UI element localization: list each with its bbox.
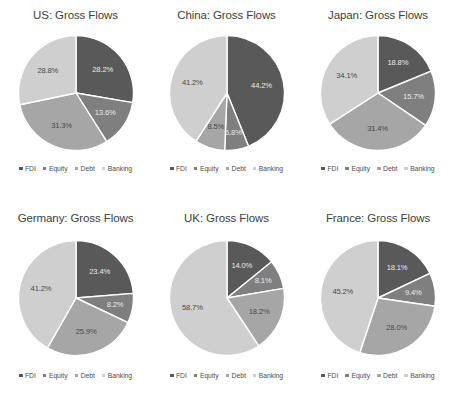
legend-swatch-icon: [377, 374, 381, 378]
pie-chart-panel: Germany: Gross Flows23.4%8.2%25.9%41.2%F…: [0, 203, 151, 415]
legend-label: Equity: [49, 372, 68, 379]
legend-swatch-icon: [43, 374, 47, 378]
pie-figure: 44.2%6.8%8.5%41.2%: [168, 34, 286, 152]
pie-figure: 28.2%13.6%31.3%28.8%: [17, 34, 135, 152]
legend-item[interactable]: FDI: [19, 165, 36, 172]
legend-swatch-icon: [19, 167, 23, 171]
legend-item[interactable]: Banking: [102, 372, 132, 379]
legend-label: Banking: [108, 165, 132, 172]
legend-item[interactable]: Equity: [345, 372, 370, 379]
legend-label: Debt: [232, 372, 246, 379]
legend-item[interactable]: Equity: [43, 372, 68, 379]
pie-figure: 18.1%9.4%28.0%45.2%: [319, 239, 437, 357]
legend-swatch-icon: [321, 167, 325, 171]
chart-legend: FDIEquityDebtBanking: [170, 372, 283, 379]
legend-label: FDI: [176, 165, 187, 172]
chart-title: China: Gross Flows: [177, 8, 276, 22]
legend-label: Debt: [383, 165, 397, 172]
legend-label: FDI: [328, 372, 339, 379]
legend-item[interactable]: Banking: [404, 372, 434, 379]
pie-figure: 14.0%8.1%18.2%58.7%: [168, 239, 286, 357]
legend-swatch-icon: [194, 167, 198, 171]
legend-item[interactable]: FDI: [321, 165, 338, 172]
chart-title: UK: Gross Flows: [184, 211, 269, 225]
pie-chart-panel: US: Gross Flows28.2%13.6%31.3%28.8%FDIEq…: [0, 0, 151, 203]
legend-swatch-icon: [253, 167, 257, 171]
legend-swatch-icon: [102, 374, 106, 378]
legend-label: FDI: [25, 372, 36, 379]
legend-label: Banking: [410, 165, 434, 172]
pie-chart-panel: Japan: Gross Flows18.8%15.7%31.4%34.1%FD…: [302, 0, 454, 203]
pie-slice: [76, 36, 134, 103]
legend-swatch-icon: [345, 167, 349, 171]
legend-item[interactable]: Debt: [75, 165, 95, 172]
legend-item[interactable]: Debt: [377, 165, 397, 172]
legend-swatch-icon: [345, 374, 349, 378]
legend-swatch-icon: [321, 374, 325, 378]
legend-swatch-icon: [75, 167, 79, 171]
chart-legend: FDIEquityDebtBanking: [321, 165, 434, 172]
legend-label: Banking: [259, 165, 283, 172]
legend-item[interactable]: Banking: [253, 165, 283, 172]
pie-figure: 23.4%8.2%25.9%41.2%: [17, 239, 135, 357]
chart-legend: FDIEquityDebtBanking: [170, 165, 283, 172]
legend-item[interactable]: Banking: [404, 165, 434, 172]
legend-swatch-icon: [170, 374, 174, 378]
pie-chart-panel: China: Gross Flows44.2%6.8%8.5%41.2%FDIE…: [151, 0, 302, 203]
legend-label: Banking: [410, 372, 434, 379]
legend-swatch-icon: [404, 374, 408, 378]
legend-label: FDI: [328, 165, 339, 172]
legend-label: Banking: [108, 372, 132, 379]
legend-item[interactable]: FDI: [321, 372, 338, 379]
pie-chart-panel: UK: Gross Flows14.0%8.1%18.2%58.7%FDIEqu…: [151, 203, 302, 415]
legend-item[interactable]: Equity: [194, 165, 219, 172]
chart-title: France: Gross Flows: [326, 211, 430, 225]
legend-item[interactable]: Debt: [75, 372, 95, 379]
chart-legend: FDIEquityDebtBanking: [19, 372, 132, 379]
legend-label: Banking: [259, 372, 283, 379]
legend-swatch-icon: [170, 167, 174, 171]
legend-item[interactable]: Equity: [194, 372, 219, 379]
legend-swatch-icon: [226, 167, 230, 171]
legend-swatch-icon: [75, 374, 79, 378]
chart-legend: FDIEquityDebtBanking: [19, 165, 132, 172]
legend-label: FDI: [25, 165, 36, 172]
legend-label: Equity: [49, 165, 68, 172]
legend-item[interactable]: Debt: [377, 372, 397, 379]
legend-item[interactable]: FDI: [170, 372, 187, 379]
legend-label: FDI: [176, 372, 187, 379]
legend-item[interactable]: Debt: [226, 372, 246, 379]
legend-item[interactable]: Equity: [345, 165, 370, 172]
legend-item[interactable]: Debt: [226, 165, 246, 172]
pie-slice: [76, 241, 133, 299]
legend-label: Equity: [351, 165, 370, 172]
legend-swatch-icon: [404, 167, 408, 171]
legend-item[interactable]: Equity: [43, 165, 68, 172]
chart-title: Japan: Gross Flows: [328, 8, 428, 22]
legend-label: Debt: [81, 372, 95, 379]
chart-title: US: Gross Flows: [33, 8, 118, 22]
legend-label: Equity: [200, 372, 219, 379]
legend-item[interactable]: Banking: [253, 372, 283, 379]
legend-swatch-icon: [102, 167, 106, 171]
legend-label: Equity: [200, 165, 219, 172]
legend-swatch-icon: [253, 374, 257, 378]
legend-label: Debt: [81, 165, 95, 172]
pie-chart-grid: US: Gross Flows28.2%13.6%31.3%28.8%FDIEq…: [0, 0, 454, 415]
pie-chart-panel: France: Gross Flows18.1%9.4%28.0%45.2%FD…: [302, 203, 454, 415]
legend-swatch-icon: [377, 167, 381, 171]
legend-swatch-icon: [19, 374, 23, 378]
legend-swatch-icon: [226, 374, 230, 378]
pie-slice: [18, 36, 76, 105]
chart-legend: FDIEquityDebtBanking: [321, 372, 434, 379]
legend-item[interactable]: FDI: [170, 165, 187, 172]
legend-label: Equity: [351, 372, 370, 379]
legend-label: Debt: [383, 372, 397, 379]
legend-item[interactable]: Banking: [102, 165, 132, 172]
pie-figure: 18.8%15.7%31.4%34.1%: [319, 34, 437, 152]
legend-swatch-icon: [194, 374, 198, 378]
legend-item[interactable]: FDI: [19, 372, 36, 379]
legend-label: Debt: [232, 165, 246, 172]
legend-swatch-icon: [43, 167, 47, 171]
chart-title: Germany: Gross Flows: [18, 211, 134, 225]
